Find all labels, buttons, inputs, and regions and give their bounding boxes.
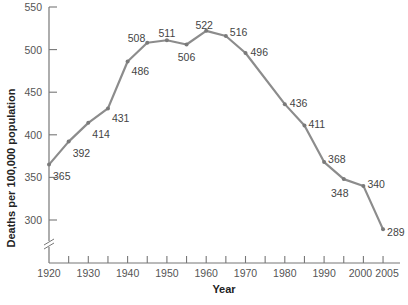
data-point <box>86 121 90 125</box>
data-labels: 3653924144314865085115065225164964364113… <box>53 19 405 239</box>
data-point <box>244 51 248 55</box>
data-label: 392 <box>73 147 91 159</box>
data-label: 348 <box>331 187 349 199</box>
y-tick-label: 550 <box>24 1 42 13</box>
data-point <box>185 42 189 46</box>
data-label: 486 <box>132 65 150 77</box>
data-label: 516 <box>230 26 248 38</box>
data-label: 411 <box>308 118 325 130</box>
x-tick-label: 1960 <box>195 267 219 279</box>
y-axis-title: Deaths per 100,000 population <box>5 88 17 247</box>
data-label: 289 <box>387 226 405 238</box>
y-tick-label: 500 <box>24 44 42 56</box>
data-label: 436 <box>290 97 308 109</box>
data-label: 340 <box>367 178 385 190</box>
data-label: 431 <box>112 112 130 124</box>
x-tick-label: 1950 <box>155 267 179 279</box>
y-ticks: 300350400450500550 <box>24 1 57 226</box>
line-chart: 300350400450500550 192019301940195019601… <box>0 0 408 305</box>
data-label: 522 <box>195 19 213 31</box>
data-point <box>302 123 306 127</box>
y-tick-label: 450 <box>24 86 42 98</box>
x-axis-title: Year <box>212 283 236 295</box>
x-ticks: 1920193019401950196019701980199020002005 <box>37 256 399 279</box>
data-point <box>283 102 287 106</box>
x-tick-label: 1990 <box>312 267 336 279</box>
x-tick-label: 1940 <box>116 267 140 279</box>
data-label: 368 <box>328 153 346 165</box>
data-label: 414 <box>92 128 110 140</box>
x-tick-label: 1970 <box>234 267 258 279</box>
data-point <box>224 34 228 38</box>
x-tick-label: 2005 <box>375 267 399 279</box>
data-point <box>342 177 346 181</box>
x-tick-label: 1930 <box>77 267 101 279</box>
x-tick-label: 1980 <box>273 267 297 279</box>
data-label: 496 <box>251 46 269 58</box>
data-point <box>47 163 51 167</box>
data-point <box>67 140 71 144</box>
data-point <box>126 60 130 64</box>
data-point <box>381 227 385 231</box>
y-tick-label: 350 <box>24 171 42 183</box>
data-label: 506 <box>178 51 196 63</box>
data-label: 511 <box>159 27 176 39</box>
data-point <box>145 41 149 45</box>
data-point <box>106 106 110 110</box>
y-tick-label: 300 <box>24 214 42 226</box>
data-point <box>361 184 365 188</box>
x-tick-label: 2000 <box>349 267 373 279</box>
data-label: 508 <box>128 32 146 44</box>
data-point <box>322 160 326 164</box>
data-label: 365 <box>53 170 71 182</box>
y-tick-label: 400 <box>24 129 42 141</box>
x-tick-label: 1920 <box>37 267 61 279</box>
